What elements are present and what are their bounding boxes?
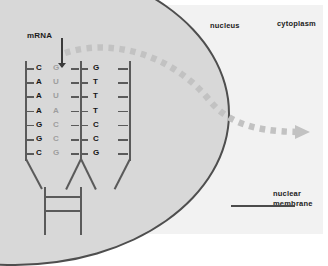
base-pair-tick bbox=[118, 111, 128, 113]
base-pair-tick bbox=[27, 68, 34, 70]
mrna-base: A bbox=[36, 76, 42, 88]
base-pair-tick bbox=[71, 96, 79, 98]
base-pair-row: GCC bbox=[25, 132, 140, 146]
nuclear-membrane-leader-line bbox=[231, 205, 295, 207]
nucleus-label: nucleus bbox=[210, 21, 240, 30]
mrna-base: G bbox=[36, 133, 42, 145]
base-pair-tick bbox=[118, 139, 128, 141]
base-pair-row: CGG bbox=[25, 61, 140, 75]
nuclear-membrane-label-line2: membrane bbox=[273, 199, 313, 209]
coding-base: C bbox=[93, 133, 99, 145]
stem-rung bbox=[44, 196, 82, 198]
mrna-label: mRNA bbox=[27, 31, 52, 40]
base-pair-tick bbox=[118, 96, 128, 98]
mrna-base: C bbox=[36, 147, 42, 159]
dna-stem bbox=[44, 187, 82, 235]
base-pair-tick bbox=[27, 125, 34, 127]
base-pair-tick bbox=[27, 139, 34, 141]
base-pair-tick bbox=[27, 96, 34, 98]
base-pair-row: AAT bbox=[25, 104, 140, 118]
base-pair-tick bbox=[27, 153, 34, 155]
base-pair-tick bbox=[71, 82, 79, 84]
base-pair-tick bbox=[82, 82, 88, 84]
template-base: G bbox=[53, 147, 59, 159]
base-pair-ladder: CGGAUTAUTAATGCCGCCCGG bbox=[25, 61, 140, 161]
template-base: U bbox=[53, 76, 59, 88]
base-pair-tick bbox=[118, 82, 128, 84]
template-base: C bbox=[53, 119, 59, 131]
coding-base: T bbox=[93, 76, 98, 88]
mrna-base: C bbox=[36, 62, 42, 74]
coding-base: C bbox=[93, 119, 99, 131]
base-pair-tick bbox=[82, 111, 88, 113]
base-pair-tick bbox=[71, 111, 79, 113]
base-pair-tick bbox=[82, 68, 88, 70]
base-pair-tick bbox=[27, 111, 34, 113]
funnel-strand-left bbox=[25, 159, 43, 190]
mrna-base: A bbox=[36, 105, 42, 117]
coding-base: G bbox=[93, 147, 99, 159]
template-base: G bbox=[53, 62, 59, 74]
nuclear-membrane-label-line1: nuclear bbox=[273, 189, 313, 199]
base-pair-tick bbox=[82, 153, 88, 155]
strand-funnel bbox=[25, 159, 140, 189]
mrna-base: A bbox=[36, 90, 42, 102]
funnel-strand-mid-left bbox=[80, 159, 97, 190]
base-pair-row: AUT bbox=[25, 89, 140, 103]
template-base: C bbox=[53, 133, 59, 145]
base-pair-tick bbox=[82, 125, 88, 127]
funnel-strand-right bbox=[114, 159, 131, 190]
coding-base: G bbox=[93, 62, 99, 74]
base-pair-tick bbox=[118, 68, 128, 70]
base-pair-tick bbox=[71, 68, 79, 70]
template-base: A bbox=[53, 105, 59, 117]
base-pair-tick bbox=[27, 82, 34, 84]
base-pair-tick bbox=[82, 96, 88, 98]
coding-base: T bbox=[93, 105, 98, 117]
base-pair-tick bbox=[71, 125, 79, 127]
diagram-panel: nucleus cytoplasm mRNA nuclear membrane … bbox=[5, 5, 323, 234]
stem-rung bbox=[44, 210, 82, 212]
cytoplasm-label: cytoplasm bbox=[277, 19, 316, 28]
base-pair-tick bbox=[118, 125, 128, 127]
base-pair-tick bbox=[118, 153, 128, 155]
base-pair-row: AUT bbox=[25, 75, 140, 89]
funnel-strand-mid-right bbox=[65, 159, 82, 190]
mrna-base: G bbox=[36, 119, 42, 131]
template-base: U bbox=[53, 90, 59, 102]
base-pair-tick bbox=[82, 139, 88, 141]
base-pair-tick bbox=[71, 153, 79, 155]
coding-base: T bbox=[93, 90, 98, 102]
base-pair-row: GCC bbox=[25, 118, 140, 132]
base-pair-tick bbox=[71, 139, 79, 141]
